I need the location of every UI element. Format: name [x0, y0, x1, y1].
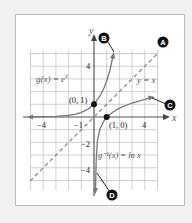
x-tick-4: 4 — [142, 120, 147, 130]
callout-c: C — [165, 100, 176, 111]
x-tick-neg1: −1 — [74, 120, 83, 130]
x-axis-arrow-icon — [163, 114, 170, 120]
y-axis-label: y — [88, 25, 94, 36]
point-label-1-0: (1, 0) — [109, 120, 128, 130]
y-tick-neg4: −4 — [81, 165, 91, 175]
exp-arrow-icon — [110, 52, 115, 59]
exp-left-arrow-icon — [27, 115, 33, 120]
svg-text:B: B — [101, 34, 107, 43]
ln-arrow-icon — [148, 96, 155, 101]
x-tick-neg4: −4 — [37, 120, 47, 130]
svg-text:D: D — [109, 191, 115, 200]
callout-d: D — [107, 190, 118, 201]
svg-text:A: A — [160, 38, 166, 47]
svg-text:C: C — [167, 101, 173, 110]
ln-curve — [96, 98, 151, 190]
point-0-1 — [91, 101, 97, 107]
point-label-0-1: (0, 1) — [69, 95, 88, 105]
callout-b: B — [99, 33, 110, 44]
y-tick-neg2: −2 — [81, 139, 90, 149]
exp-label: g(x) = ex — [36, 72, 68, 84]
ln-label: g⁻¹(x) = ln x — [98, 150, 141, 160]
identity-label: y = x — [136, 75, 156, 85]
x-axis-label: x — [171, 112, 177, 123]
callout-a: A — [158, 37, 169, 48]
graph: x y −4 −1 4 4 −2 −4 g(x) = ex y = x g⁻¹(… — [0, 0, 192, 223]
